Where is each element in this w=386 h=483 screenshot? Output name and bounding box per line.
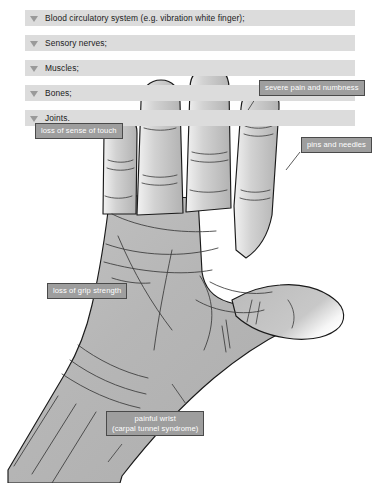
callout-text-line2: (carpal tunnel syndrome) [112, 424, 198, 434]
list-item-label: Bones; [45, 88, 72, 98]
callout-pins-and-needles[interactable]: pins and needles [301, 137, 372, 153]
callout-text-line1: severe pain and numbness [265, 83, 359, 93]
triangle-down-icon [30, 41, 38, 47]
triangle-down-icon [30, 91, 38, 97]
leader-line-pins-needles [286, 152, 300, 170]
list-item-blood-circulatory-system[interactable]: Blood circulatory system (e.g. vibration… [25, 10, 355, 26]
triangle-down-icon [30, 66, 38, 72]
triangle-down-icon [30, 16, 38, 22]
callout-loss-of-grip-strength[interactable]: loss of grip strength [47, 283, 127, 299]
callout-text-line1: loss of sense of touch [41, 126, 117, 136]
list-item-label: Blood circulatory system (e.g. vibration… [45, 13, 245, 23]
diagram-canvas: Blood circulatory system (e.g. vibration… [0, 0, 386, 483]
list-item-label: Sensory nerves; [45, 38, 107, 48]
callout-text-line1: painful wrist [112, 414, 198, 424]
list-item-sensory-nerves[interactable]: Sensory nerves; [25, 35, 355, 51]
callout-text-line1: pins and needles [307, 140, 366, 150]
callout-loss-of-sense-of-touch[interactable]: loss of sense of touch [35, 123, 123, 139]
list-item-label: Muscles; [45, 63, 79, 73]
callout-severe-pain-and-numbness[interactable]: severe pain and numbness [259, 80, 365, 96]
list-item-muscles[interactable]: Muscles; [25, 60, 355, 76]
list-item-label: Joints. [45, 113, 70, 123]
triangle-down-icon [30, 116, 38, 122]
callout-text-line1: loss of grip strength [53, 286, 121, 296]
callout-painful-wrist[interactable]: painful wrist (carpal tunnel syndrome) [106, 411, 204, 436]
